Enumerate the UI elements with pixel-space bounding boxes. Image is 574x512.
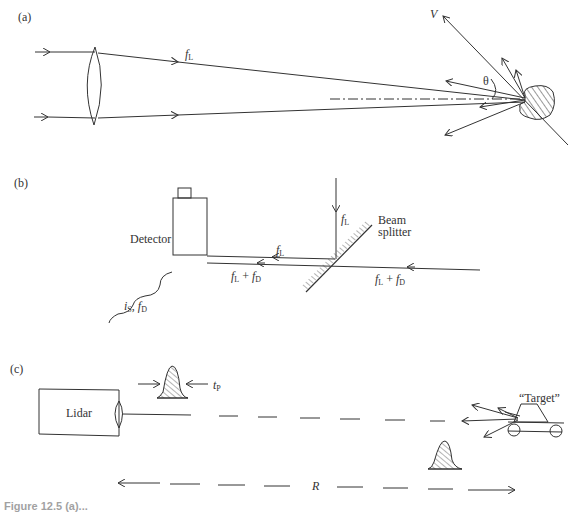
panel-c-label: (c) <box>10 362 23 377</box>
panel-b-optics <box>109 178 480 323</box>
target-vehicle <box>514 404 548 422</box>
figure-caption: Figure 12.5 (a)... <box>4 500 88 512</box>
detector-cap <box>178 188 191 198</box>
pulse-width-label: tP <box>213 379 221 393</box>
panel-a-label: (a) <box>18 10 31 25</box>
velocity-label: V <box>430 8 437 20</box>
signal-wire <box>109 272 172 323</box>
lens-icon <box>87 47 101 125</box>
panel-c-lidar <box>39 366 564 490</box>
range-label: R <box>312 480 319 492</box>
fl-plus-fd-right-label: fL + fD <box>375 273 405 287</box>
fl-plus-fd-left-label: fL + fD <box>231 270 261 284</box>
signal-label: iS, fD <box>124 300 147 314</box>
fl-top-label: fL <box>341 213 349 227</box>
panel-b-label: (b) <box>14 176 28 191</box>
beam-splitter-label: Beamsplitter <box>378 214 411 238</box>
lidar-label: Lidar <box>66 407 92 419</box>
detector-box <box>173 198 207 255</box>
angle-theta-label: θ <box>483 75 489 87</box>
detector-label: Detector <box>130 233 171 245</box>
fl-left-label: fL <box>276 244 284 258</box>
target-label: “Target” <box>519 392 560 404</box>
focal-length-label: fL <box>185 48 193 62</box>
